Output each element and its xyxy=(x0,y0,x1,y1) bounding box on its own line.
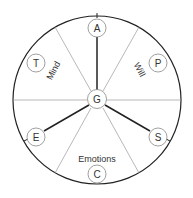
node-p-label: P xyxy=(155,58,162,69)
node-c-label: C xyxy=(93,169,100,180)
center-node-label: G xyxy=(93,94,101,105)
node-e-label: E xyxy=(33,132,40,143)
node-s[interactable]: S xyxy=(149,128,167,146)
sector-label-emotions: Emotions xyxy=(78,154,116,164)
node-t-label: T xyxy=(33,58,39,69)
node-a-label: A xyxy=(94,23,101,34)
wheel-diagram: A P S C E T G Mind Will Emotions xyxy=(0,0,193,198)
node-p[interactable]: P xyxy=(149,54,167,72)
node-e[interactable]: E xyxy=(27,128,45,146)
node-c[interactable]: C xyxy=(88,165,106,183)
node-t[interactable]: T xyxy=(27,54,45,72)
node-a[interactable]: A xyxy=(88,19,106,37)
node-s-label: S xyxy=(155,132,162,143)
center-node-g[interactable]: G xyxy=(88,90,107,109)
